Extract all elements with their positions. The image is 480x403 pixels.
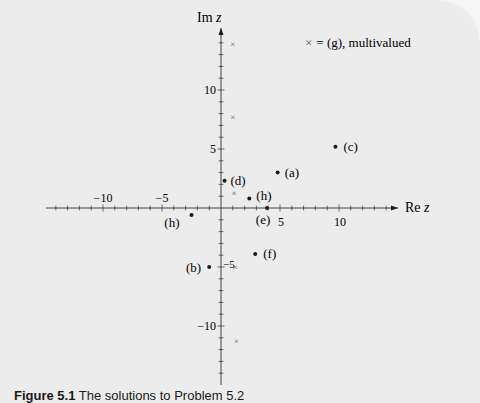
caption-label: Figure 5.1 <box>14 388 75 403</box>
solution-point-dot-icon <box>207 265 211 269</box>
x-tick-label: 10 <box>334 215 346 229</box>
multivalued-points: ××××× <box>230 39 239 346</box>
x-tick-label: −10 <box>94 191 113 205</box>
point-label: (f) <box>263 246 276 261</box>
x-tick-label: 5 <box>278 215 284 229</box>
point-label: (b) <box>186 260 201 275</box>
multivalued-cross-icon: × <box>230 112 235 122</box>
point-label: (h) <box>164 215 179 230</box>
y-tick-label: −10 <box>197 319 216 333</box>
multivalued-cross-icon: × <box>234 336 239 346</box>
solution-point-dot-icon <box>223 179 227 183</box>
legend-cross-icon: × <box>305 35 312 50</box>
multivalued-cross-icon: × <box>231 188 236 198</box>
x-tick-label: −5 <box>156 191 169 205</box>
y-axis-label: Im z <box>197 10 222 25</box>
y-tick-label: 10 <box>204 83 216 97</box>
axes <box>46 28 398 385</box>
point-label: (c) <box>343 139 357 154</box>
caption-text: The solutions to Problem 5.2 <box>75 388 244 403</box>
multivalued-cross-icon: × <box>233 262 238 272</box>
point-label: (h) <box>256 188 271 203</box>
legend: ×= (g), multivalued <box>305 35 411 50</box>
solution-point-dot-icon <box>276 171 280 175</box>
point-label: (e) <box>256 212 270 227</box>
solution-point-dot-icon <box>253 252 257 256</box>
solution-point-dot-icon <box>190 213 194 217</box>
y-tick-label: 5 <box>210 142 216 156</box>
solution-point-dot-icon <box>247 197 251 201</box>
solution-point-dot-icon <box>265 206 269 210</box>
x-axis-arrow-icon <box>391 206 398 211</box>
multivalued-cross-icon: × <box>230 39 235 49</box>
data-points: (a)(b)(c)(d)(e)(f)(h)(h) <box>164 139 358 275</box>
point-label: (d) <box>231 173 246 188</box>
solution-point-dot-icon <box>333 145 337 149</box>
figure-caption: Figure 5.1 The solutions to Problem 5.2 <box>14 388 244 403</box>
y-axis-arrow-icon <box>219 28 224 35</box>
x-axis-label: Re z <box>405 200 430 215</box>
point-label: (a) <box>285 165 299 180</box>
